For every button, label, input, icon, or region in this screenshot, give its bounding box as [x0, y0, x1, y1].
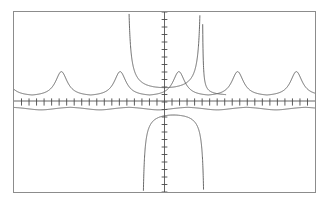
- graph-screen: [0, 0, 329, 204]
- curve-asymptote-branch-down: [143, 115, 203, 191]
- plot-frame: [13, 11, 316, 193]
- curve-asymptote-branch-right: [203, 24, 226, 94]
- y-axis-group: [162, 12, 168, 192]
- plot-canvas: [14, 12, 315, 192]
